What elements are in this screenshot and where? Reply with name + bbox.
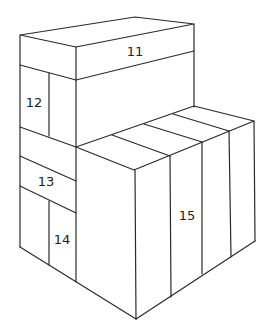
step-top-face xyxy=(76,106,254,170)
label-box-15: 15 xyxy=(179,208,196,223)
label-box-14: 14 xyxy=(54,232,71,247)
box-stack-diagram: 11 12 13 14 15 xyxy=(0,0,271,335)
label-box-12: 12 xyxy=(26,95,43,110)
label-box-13: 13 xyxy=(38,174,55,189)
upper-block xyxy=(20,17,194,319)
label-box-11: 11 xyxy=(127,44,144,59)
lower-step-block xyxy=(76,106,255,319)
box-13-bottom-edge xyxy=(20,186,76,213)
box-11-top-face xyxy=(20,17,194,47)
box-11-left-bottom-edge xyxy=(20,65,76,80)
